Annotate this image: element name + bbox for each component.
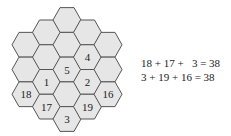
hex-cell-number: 5: [64, 64, 70, 76]
hex-cell-number: 3: [64, 113, 70, 125]
hex-cell-number: 4: [85, 51, 91, 63]
hex-cell-number: 2: [85, 76, 91, 88]
hex-cell-number: 1: [44, 76, 50, 88]
hex-cell-number: 19: [82, 101, 94, 113]
equation-line-1: 18 + 17 + 3 = 38: [141, 57, 220, 69]
equation-line-2: 3 + 19 + 16 = 38: [141, 71, 215, 83]
hex-cell-number: 16: [103, 88, 115, 100]
hex-cell-number: 18: [21, 88, 33, 100]
hex-grid: 1811753421916: [0, 0, 140, 136]
hex-cell-number: 17: [41, 101, 53, 113]
